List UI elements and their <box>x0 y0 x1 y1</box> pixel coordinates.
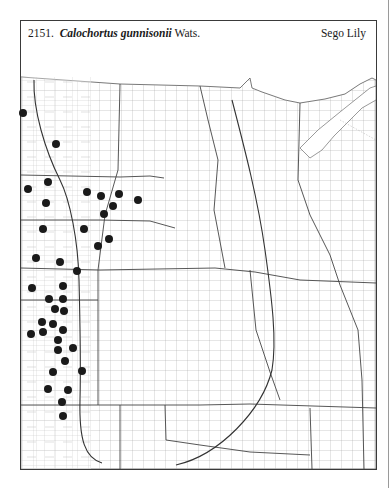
occurrence-dot <box>42 199 50 207</box>
occurrence-dot <box>56 258 64 266</box>
occurrence-dot <box>61 357 69 365</box>
occurrence-dot <box>49 320 57 328</box>
occurrence-dot <box>32 254 40 262</box>
occurrence-dot <box>59 282 67 290</box>
occurrence-dot <box>45 295 53 303</box>
occurrence-dot <box>52 140 60 148</box>
occurrence-dot <box>64 386 72 394</box>
occurrence-dot <box>58 398 66 406</box>
occurrence-dot <box>44 178 52 186</box>
occurrence-dot <box>134 196 142 204</box>
occurrence-dot <box>80 225 88 233</box>
occurrence-dot <box>59 326 67 334</box>
occurrence-dot <box>59 412 67 420</box>
occurrence-dot <box>19 109 27 117</box>
occurrence-dot <box>38 318 46 326</box>
occurrence-dot <box>105 235 113 243</box>
occurrence-dot <box>27 330 35 338</box>
occurrence-dot <box>39 328 47 336</box>
occurrence-dot <box>73 267 81 275</box>
occurrence-dot <box>49 368 57 376</box>
occurrence-dot <box>54 346 62 354</box>
distribution-map <box>0 0 391 488</box>
occurrence-dot <box>109 202 117 210</box>
occurrence-dot <box>78 367 86 375</box>
occurrence-dot <box>97 192 105 200</box>
occurrence-dot <box>100 210 108 218</box>
occurrence-dot <box>39 225 47 233</box>
occurrence-dot <box>28 284 36 292</box>
occurrence-dot <box>24 185 32 193</box>
occurrence-dot <box>59 295 67 303</box>
occurrence-dot <box>60 307 68 315</box>
occurrence-dot <box>69 344 77 352</box>
occurrence-dot <box>51 305 59 313</box>
occurrence-dot <box>83 188 91 196</box>
occurrence-dot <box>94 242 102 250</box>
occurrence-dot <box>54 336 62 344</box>
occurrence-dot <box>44 385 52 393</box>
occurrence-dot <box>115 190 123 198</box>
